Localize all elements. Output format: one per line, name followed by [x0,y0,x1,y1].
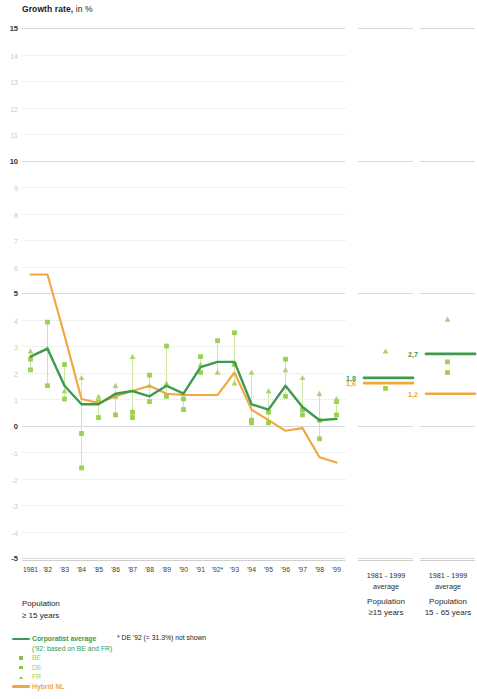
avg2-period2: average [417,581,477,592]
y-axis-label-minor: 11 [11,132,18,139]
x-axis-tick: '99 [332,566,341,573]
footnote: * DE '92 (= 31.3%) not shown [117,634,206,641]
x-axis-tick: '98 [315,566,324,573]
axis-baseline-main [22,560,345,561]
main-population-label: Population ≥ 15 years [22,598,60,622]
corporatist-line-icon [10,638,32,640]
x-axis-tick: '97 [298,566,307,573]
fr-triangle-icon [10,676,32,679]
x-axis-tick: '82 [43,566,52,573]
average-panel-2-label: 1981 - 1999 average Population 15 - 65 y… [417,570,477,618]
legend-sublabel-corporatist: ('92: based on BE and FR) [32,644,112,654]
average-value-corporatist: 2,7 [408,349,418,358]
x-axis: 1981'82'83'84'85'86'87'88'89'90'91'92*'9… [22,566,345,580]
x-axis-tick: '93 [230,566,239,573]
y-axis-label-minor: 6 [14,264,18,271]
axis-baseline-avg2 [420,560,475,561]
y-axis-label-minor: -2 [12,476,18,483]
y-axis-label-minor: 8 [14,211,18,218]
y-axis-label-minor: -1 [12,450,18,457]
x-axis-tick: '83 [60,566,69,573]
avg2-period: 1981 - 1999 [417,570,477,581]
avg1-population1: Population [355,596,417,607]
legend-label-corporatist: Corporatist average [32,634,96,644]
y-axis-label-minor: 9 [14,185,18,192]
legend-label-fr: FR [32,672,41,682]
x-axis-tick: '89 [162,566,171,573]
legend-item-de: DE [10,663,112,673]
y-axis-label-minor: 1 [14,397,18,404]
avg2-population2: 15 - 65 years [417,607,477,618]
y-axis-label-major: 0 [14,421,18,430]
legend-label-de: DE [32,663,41,673]
y-axis-label-minor: 7 [14,238,18,245]
avg1-period: 1981 - 1999 [355,570,417,581]
be-square-icon [10,656,32,659]
x-axis-tick: '84 [77,566,86,573]
y-axis-label-minor: -3 [12,503,18,510]
hybrid-line-icon [10,685,32,687]
x-axis-tick: 1981 [23,566,38,573]
average-value-hybrid: 1,6 [346,379,356,388]
average-panel-1-plot [358,28,413,558]
y-axis-label-major: -5 [11,554,18,563]
x-axis-tick: '86 [111,566,120,573]
gridline-major: -5 [22,558,345,559]
y-axis-label-minor: 13 [10,79,18,86]
x-axis-tick: '88 [145,566,154,573]
main-population-line1: Population [22,598,60,610]
x-axis-tick: '91 [196,566,205,573]
legend-item-hybrid: Hybrid NL [10,682,112,692]
gridline-major [420,558,475,559]
avg2-population1: Population [417,596,477,607]
x-axis-tick: '96 [281,566,290,573]
axis-baseline-avg1 [358,560,413,561]
legend-label-be: BE [32,653,41,663]
series-main [22,28,345,558]
x-axis-tick: '94 [247,566,256,573]
chart-title-light: in % [73,4,92,14]
chart-title-bold: Growth rate, [22,4,73,14]
page-title: Growth rate, in % [22,4,93,14]
x-axis-tick: '95 [264,566,273,573]
y-axis-label-minor: 3 [14,344,18,351]
legend-item-be: BE [10,653,112,663]
main-plot-area: 1413121198764321-1-2-3-4151050-5 [22,28,345,558]
y-axis-label-minor: -4 [12,529,18,536]
gridline-major [358,558,413,559]
average-panel-1-label: 1981 - 1999 average Population ≥15 years [355,570,417,618]
x-axis-tick: '85 [94,566,103,573]
y-axis-label-major: 10 [10,156,18,165]
x-axis-tick: '90 [179,566,188,573]
legend-label-hybrid: Hybrid NL [32,682,64,692]
legend-item-fr: FR [10,672,112,682]
de-square-icon [10,666,32,669]
average-panel-2-plot [420,28,475,558]
y-axis-label-minor: 12 [10,105,18,112]
y-axis-label-major: 5 [14,289,18,298]
series-avg1 [358,28,413,558]
x-axis-tick: '92* [212,566,224,573]
y-axis-label-minor: 14 [10,52,18,59]
avg1-population2: ≥15 years [355,607,417,618]
y-axis-label-major: 15 [10,24,18,33]
series-avg2 [420,28,475,558]
x-axis-tick: '87 [128,566,137,573]
legend: Corporatist average ('92: based on BE an… [10,634,112,691]
y-axis-label-minor: 4 [14,317,18,324]
legend-item-corporatist: Corporatist average [10,634,112,644]
average-value-hybrid: 1,2 [408,389,418,398]
y-axis-label-minor: 2 [14,370,18,377]
avg1-period2: average [355,581,417,592]
main-population-line2: ≥ 15 years [22,610,60,622]
